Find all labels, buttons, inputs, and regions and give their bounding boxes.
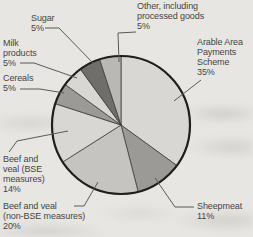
pie-chart-figure: Arable Area Payments Scheme 35% Sheepmea…	[0, 0, 253, 237]
slice-label-arable: Arable Area Payments Scheme 35%	[197, 37, 243, 77]
slice-label-beef-veal-non-bse: Beef and veal (non-BSE measures) 20%	[3, 201, 85, 231]
slice-label-sheepmeat: Sheepmeat 11%	[197, 201, 242, 221]
slice-label-other: Other, including processed goods 5%	[137, 1, 204, 31]
slice-label-milk-products: Milk products 5%	[3, 38, 37, 68]
slice-label-sugar: Sugar 5%	[31, 13, 55, 33]
slice-label-cereals: Cereals 5%	[3, 73, 33, 93]
slice-label-beef-veal-bse: Beef and veal (BSE measures) 14%	[3, 154, 45, 194]
leader-line-sugar	[45, 28, 93, 63]
